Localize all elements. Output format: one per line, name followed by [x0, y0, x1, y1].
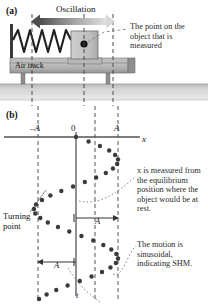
data-point: [89, 274, 93, 278]
data-point: [65, 283, 69, 287]
amplitude-arrow-upper: [74, 214, 119, 222]
ground-slab: [0, 84, 208, 100]
figure-shm: (a) Oscillation: [0, 0, 208, 306]
amplitude-arrow-lower: [37, 258, 76, 266]
measured-point-callout: The point on the object that is measured: [130, 22, 206, 51]
leader-to-sinusoidal-callout: [113, 246, 136, 275]
data-point: [115, 162, 119, 166]
data-point: [101, 243, 105, 247]
data-point: [116, 157, 120, 161]
data-point: [94, 175, 98, 179]
data-point: [44, 292, 48, 296]
panel-b-graphic: [0, 106, 208, 306]
panel-b-leader-lines: [68, 176, 136, 302]
data-point: [33, 211, 37, 215]
data-point: [38, 216, 42, 220]
data-point: [59, 189, 63, 193]
data-point: [108, 265, 112, 269]
data-point: [114, 261, 118, 265]
data-point: [104, 171, 108, 175]
data-point: [116, 256, 120, 260]
data-point: [46, 220, 50, 224]
panel-b-reference-lines: [38, 106, 118, 302]
data-point: [111, 166, 115, 170]
data-point: [54, 288, 58, 292]
data-point: [74, 135, 78, 139]
data-point: [100, 270, 104, 274]
data-point: [79, 234, 83, 238]
data-point: [98, 144, 102, 148]
data-point: [109, 247, 113, 251]
data-point: [48, 193, 52, 197]
panel-a-graphic: [0, 0, 208, 108]
data-point: [107, 148, 111, 152]
leader-to-equilibrium-callout: [79, 176, 136, 202]
data-point: [67, 229, 71, 233]
data-point: [86, 139, 90, 143]
air-track-label: Air track: [15, 61, 44, 70]
oscillating-block: [68, 31, 102, 64]
spring-coils: [13, 30, 71, 52]
data-point: [34, 202, 38, 206]
data-point: [32, 207, 36, 211]
data-point: [56, 225, 60, 229]
data-point: [71, 184, 75, 188]
air-track-legs: [21, 72, 110, 84]
spring-wall: [10, 24, 13, 58]
data-point: [91, 238, 95, 242]
oscillation-arrow: [31, 15, 115, 29]
data-point: [37, 297, 41, 301]
data-point: [114, 252, 118, 256]
data-point: [78, 279, 82, 283]
data-point: [83, 180, 87, 184]
data-point: [40, 198, 44, 202]
data-point: [113, 153, 117, 157]
